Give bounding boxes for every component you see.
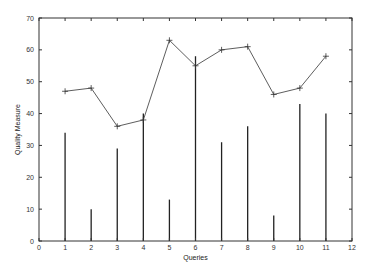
plus-marker-icon — [271, 91, 277, 97]
x-tick-label: 12 — [348, 244, 356, 251]
y-tick-label: 20 — [26, 174, 34, 181]
plus-marker-icon — [219, 47, 225, 53]
x-tick-label: 7 — [220, 244, 224, 251]
y-tick-label: 30 — [26, 142, 34, 149]
plus-marker-icon — [62, 88, 68, 94]
x-tick-label: 5 — [167, 244, 171, 251]
y-tick-label: 50 — [26, 78, 34, 85]
y-axis-ticks: 010203040506070 — [26, 15, 352, 245]
x-tick-label: 1 — [63, 244, 67, 251]
impulse-bars — [65, 56, 326, 241]
y-tick-label: 0 — [30, 238, 34, 245]
y-tick-label: 70 — [26, 15, 34, 22]
plus-marker-icon — [140, 117, 146, 123]
x-tick-label: 11 — [322, 244, 329, 251]
x-tick-label: 9 — [272, 244, 276, 251]
x-axis-ticks: 0123456789101112 — [37, 18, 356, 251]
x-tick-label: 0 — [37, 244, 41, 251]
y-tick-label: 60 — [26, 46, 34, 53]
plus-marker-icon — [114, 123, 120, 129]
x-tick-label: 6 — [194, 244, 198, 251]
plus-marker-icon — [88, 85, 94, 91]
y-tick-label: 40 — [26, 110, 34, 117]
x-tick-label: 10 — [296, 244, 304, 251]
x-axis-title: Queries — [183, 254, 208, 262]
y-tick-label: 10 — [26, 206, 34, 213]
x-tick-label: 3 — [115, 244, 119, 251]
x-tick-label: 2 — [89, 244, 93, 251]
y-axis-title: Quality Measure — [14, 104, 22, 155]
x-tick-label: 8 — [246, 244, 250, 251]
x-tick-label: 4 — [141, 244, 145, 251]
chart: 0123456789101112 010203040506070 Queries… — [0, 0, 372, 277]
plus-marker-icon — [245, 44, 251, 50]
